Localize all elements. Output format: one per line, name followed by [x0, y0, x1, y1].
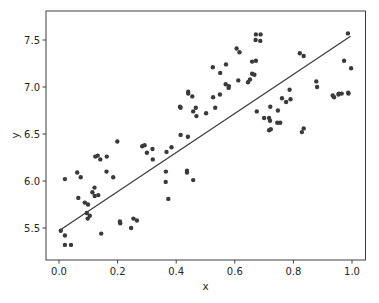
data-point: [190, 94, 194, 98]
data-point: [224, 82, 228, 86]
data-point: [280, 96, 284, 100]
data-point: [115, 139, 119, 143]
data-point: [96, 193, 100, 197]
data-point: [268, 105, 272, 109]
data-point: [166, 197, 170, 201]
data-point: [211, 95, 215, 99]
data-point: [276, 108, 280, 112]
data-point: [76, 196, 80, 200]
data-point: [278, 121, 282, 125]
data-point: [269, 127, 273, 131]
x-tick-label: 0.8: [285, 266, 301, 277]
data-point: [191, 178, 195, 182]
data-point: [92, 185, 96, 189]
plot-canvas: 0.00.20.40.60.81.0 5.56.06.57.07.5 x y: [0, 0, 379, 303]
data-point: [258, 39, 262, 43]
data-point: [262, 116, 266, 120]
data-point: [254, 32, 258, 36]
y-tick-label: 5.5: [24, 223, 40, 234]
y-tick-label: 6.0: [24, 176, 40, 187]
data-point: [268, 119, 272, 123]
data-point: [253, 38, 257, 42]
data-point: [178, 106, 182, 110]
data-point: [69, 243, 73, 247]
data-point: [98, 157, 102, 161]
data-point: [218, 92, 222, 96]
data-point: [236, 78, 240, 82]
x-tick-label: 0.0: [51, 266, 67, 277]
data-point: [164, 150, 168, 154]
data-point: [104, 169, 108, 173]
data-point: [237, 50, 241, 54]
data-point: [252, 73, 256, 77]
data-point: [250, 59, 254, 63]
data-point: [302, 126, 306, 130]
data-point: [211, 65, 215, 69]
data-point: [164, 180, 168, 184]
data-point: [255, 109, 259, 113]
data-point: [336, 92, 340, 96]
data-point: [349, 66, 353, 70]
data-point: [185, 170, 189, 174]
data-point: [169, 145, 173, 149]
data-point: [150, 147, 154, 151]
data-point: [302, 54, 306, 58]
data-point: [314, 79, 318, 83]
data-point: [118, 221, 122, 225]
data-point: [315, 85, 319, 89]
data-point: [164, 169, 168, 173]
scatter-chart: 0.00.20.40.60.81.0 5.56.06.57.07.5 x y: [0, 0, 379, 303]
data-point: [111, 175, 115, 179]
x-axis-ticks: 0.00.20.40.60.81.0: [51, 260, 360, 277]
data-point: [287, 88, 291, 92]
data-point: [79, 175, 83, 179]
data-point: [142, 143, 146, 147]
data-point: [224, 62, 228, 66]
y-axis-ticks: 5.56.06.57.07.5: [24, 35, 46, 234]
data-point: [90, 190, 94, 194]
data-point: [298, 51, 302, 55]
x-tick-label: 1.0: [344, 266, 360, 277]
y-tick-label: 6.5: [24, 129, 40, 140]
data-point: [63, 243, 67, 247]
data-point: [151, 157, 155, 161]
data-point: [288, 97, 292, 101]
data-point: [145, 151, 149, 155]
data-point: [194, 114, 198, 118]
data-point: [284, 100, 288, 104]
data-point: [88, 214, 92, 218]
y-tick-label: 7.0: [24, 82, 40, 93]
data-point: [258, 32, 262, 36]
x-tick-label: 0.4: [168, 266, 184, 277]
x-tick-label: 0.6: [227, 266, 243, 277]
data-point: [63, 233, 67, 237]
regression-line: [59, 36, 351, 231]
axes-frame: [46, 11, 366, 260]
data-point: [234, 46, 238, 50]
data-point: [346, 31, 350, 35]
data-point: [248, 77, 252, 81]
x-axis-label: x: [203, 280, 209, 292]
data-point: [342, 59, 346, 63]
data-point: [178, 133, 182, 137]
y-axis-label: y: [9, 132, 21, 138]
data-point: [213, 106, 217, 110]
data-point: [254, 59, 258, 63]
fit-line: [59, 36, 351, 231]
data-point: [105, 154, 109, 158]
data-point: [75, 170, 79, 174]
data-point: [191, 109, 195, 113]
data-point: [129, 226, 133, 230]
data-point: [204, 111, 208, 115]
data-point: [194, 106, 198, 110]
data-point: [96, 153, 100, 157]
data-point: [218, 71, 222, 75]
data-point: [63, 177, 67, 181]
data-point: [86, 202, 90, 206]
data-point: [346, 91, 350, 95]
data-point: [135, 218, 139, 222]
data-point: [186, 135, 190, 139]
x-tick-label: 0.2: [110, 266, 126, 277]
data-point: [332, 95, 336, 99]
data-point: [99, 231, 103, 235]
